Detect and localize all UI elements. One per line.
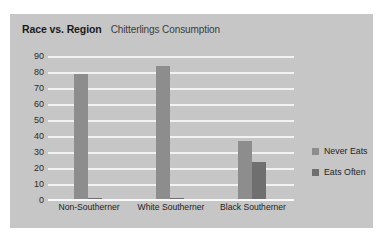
x-axis-tick-label: White Southerner xyxy=(138,203,205,212)
bar-group xyxy=(238,56,266,200)
x-axis-tick-label: Black Southerner xyxy=(220,203,286,212)
y-axis-tick-label: 30 xyxy=(34,148,44,157)
bar-group xyxy=(74,56,102,200)
axis-baseline xyxy=(48,199,294,201)
y-axis-tick-label: 70 xyxy=(34,84,44,93)
x-axis: Non-SouthernerWhite SouthernerBlack Sout… xyxy=(48,203,294,219)
plot-area xyxy=(48,56,294,200)
bar[interactable] xyxy=(252,162,266,200)
bar[interactable] xyxy=(156,66,170,200)
y-axis: 9080706050403020100 xyxy=(20,56,44,200)
y-axis-tick-label: 0 xyxy=(39,196,44,205)
bar[interactable] xyxy=(238,141,252,200)
chart-panel: Race vs. Region Chitterlings Consumption… xyxy=(10,14,373,228)
legend-swatch-icon xyxy=(312,148,319,155)
legend-swatch-icon xyxy=(312,169,319,176)
chart-legend: Never EatsEats Often xyxy=(312,147,368,177)
legend-item[interactable]: Eats Often xyxy=(312,168,368,177)
y-axis-tick-label: 20 xyxy=(34,164,44,173)
bar-group xyxy=(156,56,184,200)
chart-subtitle: Chitterlings Consumption xyxy=(111,24,220,35)
x-axis-tick-label: Non-Southerner xyxy=(58,203,119,212)
y-axis-tick-label: 60 xyxy=(34,100,44,109)
y-axis-tick-label: 10 xyxy=(34,180,44,189)
y-axis-tick-label: 90 xyxy=(34,52,44,61)
chart-header: Race vs. Region Chitterlings Consumption xyxy=(22,23,220,35)
chart-title: Race vs. Region xyxy=(22,23,102,35)
bar[interactable] xyxy=(74,74,88,200)
y-axis-tick-label: 80 xyxy=(34,68,44,77)
legend-label: Never Eats xyxy=(324,147,368,156)
y-axis-tick-label: 50 xyxy=(34,116,44,125)
y-axis-tick-label: 40 xyxy=(34,132,44,141)
legend-item[interactable]: Never Eats xyxy=(312,147,368,156)
legend-label: Eats Often xyxy=(324,168,366,177)
